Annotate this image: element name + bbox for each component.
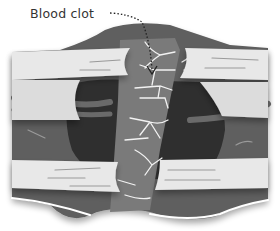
blood-clot-diagram <box>0 0 280 231</box>
